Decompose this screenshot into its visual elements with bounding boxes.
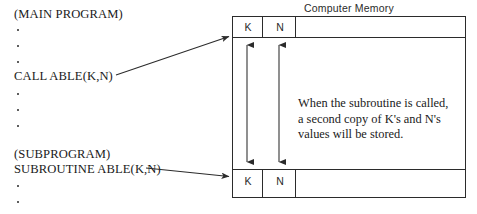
memory-cell-top-k: K bbox=[234, 21, 262, 33]
ellipsis-dot bbox=[17, 201, 19, 203]
bottom-row-cell-divider-1 bbox=[262, 169, 263, 197]
memory-cell-bottom-n: N bbox=[266, 175, 294, 187]
ellipsis-dot bbox=[17, 61, 19, 63]
memory-note-line-1: When the subroutine is called, bbox=[298, 96, 468, 112]
subroutine-statement: SUBROUTINE ABLE(K,N) bbox=[14, 163, 161, 176]
top-row-cell-divider-2 bbox=[295, 17, 296, 37]
memory-title: Computer Memory bbox=[232, 2, 466, 14]
ellipsis-dot bbox=[17, 125, 19, 127]
ellipsis-dot bbox=[17, 185, 19, 187]
memory-note-line-3: values will be stored. bbox=[298, 127, 468, 143]
ellipsis-dot bbox=[17, 109, 19, 111]
memory-note-line-2: a second copy of K's and N's bbox=[298, 112, 468, 128]
bottom-row-divider bbox=[233, 169, 465, 170]
diagram-canvas: (MAIN PROGRAM) CALL ABLE(K,N) (SUBPROGRA… bbox=[0, 0, 477, 214]
memory-note: When the subroutine is called, a second … bbox=[298, 96, 468, 143]
call-statement: CALL ABLE(K,N) bbox=[14, 70, 113, 83]
top-row-divider bbox=[233, 37, 465, 38]
subprogram-header: (SUBPROGRAM) bbox=[14, 148, 110, 161]
program-listing: (MAIN PROGRAM) CALL ABLE(K,N) (SUBPROGRA… bbox=[0, 0, 228, 214]
ellipsis-dot bbox=[17, 93, 19, 95]
bottom-row-cell-divider-2 bbox=[295, 169, 296, 197]
memory-cell-top-n: N bbox=[266, 21, 294, 33]
top-row-cell-divider-1 bbox=[262, 17, 263, 37]
ellipsis-dot bbox=[17, 29, 19, 31]
memory-cell-bottom-k: K bbox=[234, 175, 262, 187]
main-program-header: (MAIN PROGRAM) bbox=[14, 8, 123, 21]
ellipsis-dot bbox=[17, 45, 19, 47]
